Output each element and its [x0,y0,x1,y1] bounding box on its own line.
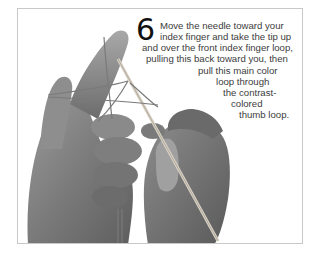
instruction-line: Move the needle toward your [160,20,284,31]
instruction-line: thumb loop. [239,109,289,120]
instruction-line: pull this main color [198,65,277,76]
instruction-figure: 6 Move the needle toward your index fing… [17,8,303,244]
step-number: 6 [136,17,155,43]
instruction-line: index finger and take the tip up [160,31,291,42]
instruction-line: loop through [216,76,269,87]
instruction-line: the contrast- [223,87,276,98]
instruction-line: pulling this back toward you, then [146,53,288,64]
instruction-line: colored [231,98,262,109]
instruction-line: and over the front index finger loop, [142,42,293,53]
